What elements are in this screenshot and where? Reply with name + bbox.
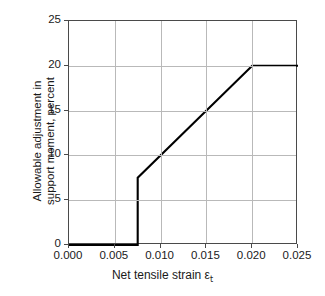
x-axis-title-subscript: t xyxy=(210,275,213,284)
y-axis-tickmark xyxy=(64,199,68,200)
gridline-vertical xyxy=(161,21,162,243)
x-axis-tickmark xyxy=(297,244,298,248)
y-axis-tickmark xyxy=(64,20,68,21)
y-axis-tickmark xyxy=(64,110,68,111)
y-axis-title-line1: Allowable adjustment in xyxy=(31,26,44,256)
gridline-horizontal xyxy=(69,155,296,156)
x-axis-tickmark xyxy=(68,244,69,248)
y-axis-title: Allowable adjustment in support moment, … xyxy=(31,26,57,256)
y-axis-title-line2: support moment, percent xyxy=(44,26,57,256)
x-axis-tickmark xyxy=(205,244,206,248)
gridline-vertical xyxy=(115,21,116,243)
y-axis-tick-label: 25 xyxy=(48,14,61,25)
data-series-line xyxy=(69,21,298,245)
x-axis-title-text: Net tensile strain ε xyxy=(112,268,210,282)
gridline-vertical xyxy=(252,21,253,243)
plot-area xyxy=(68,20,297,244)
gridline-horizontal xyxy=(69,66,296,67)
x-axis-tickmark xyxy=(114,244,115,248)
gridline-horizontal xyxy=(69,200,296,201)
y-axis-tickmark xyxy=(64,154,68,155)
x-axis-tickmark xyxy=(160,244,161,248)
gridline-vertical xyxy=(206,21,207,243)
x-axis-title: Net tensile strain εt xyxy=(0,268,325,284)
y-axis-tickmark xyxy=(64,65,68,66)
gridline-horizontal xyxy=(69,111,296,112)
chart-figure: 0.0000.0050.0100.0150.0200.0250510152025… xyxy=(0,0,325,296)
x-axis-tick-label: 0.025 xyxy=(267,249,325,261)
y-axis-tickmark xyxy=(64,244,68,245)
x-axis-tickmark xyxy=(251,244,252,248)
